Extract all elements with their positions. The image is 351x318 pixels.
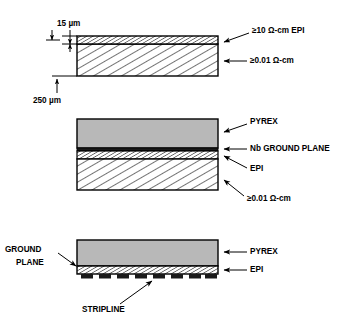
label-bottom-ground-plane-line1: GROUND (5, 245, 41, 254)
label-bottom-epi: EPI (250, 265, 263, 274)
middle-epi-layer (77, 151, 218, 159)
stripline-segment (135, 274, 147, 279)
middle-substrate-leader-line (224, 180, 244, 196)
middle-epi-leader-line (224, 156, 247, 168)
dimension-epi-thickness: 15 µm (57, 19, 80, 28)
middle-pyrex-leader-line (224, 124, 247, 132)
label-middle-nb-ground-plane: Nb GROUND PLANE (250, 144, 330, 153)
diagram-canvas: 15 µm 250 µm ≥10 Ω-cm EPI ≥0.01 Ω-cm (0, 0, 351, 318)
bottom-epi-layer (77, 266, 218, 274)
bottom-pyrex-layer (77, 240, 218, 266)
stripline-segment (189, 274, 201, 279)
stripline-segment (171, 274, 183, 279)
middle-substrate-layer (77, 159, 218, 190)
top-epi-leader-line (224, 33, 249, 42)
top-substrate-layer (77, 44, 218, 76)
label-bottom-pyrex: PYREX (250, 247, 278, 256)
stripline-segment (153, 274, 165, 279)
label-middle-epi: EPI (250, 164, 263, 173)
label-top-epi: ≥10 Ω-cm EPI (252, 26, 304, 35)
label-bottom-stripline: STRIPLINE (82, 305, 125, 314)
stripline-segment (99, 274, 111, 279)
substrate-cross-section-diagram: 15 µm 250 µm ≥10 Ω-cm EPI ≥0.01 Ω-cm (0, 0, 351, 318)
label-middle-substrate: ≥0.01 Ω-cm (247, 194, 291, 203)
label-top-substrate: ≥0.01 Ω-cm (250, 56, 294, 65)
bottom-ground-plane-leader-line (58, 253, 76, 266)
stripline-segment (205, 274, 217, 279)
panel-top: 15 µm 250 µm ≥10 Ω-cm EPI ≥0.01 Ω-cm (33, 19, 304, 105)
middle-pyrex-layer (77, 119, 218, 148)
label-middle-pyrex: PYREX (250, 117, 278, 126)
stripline-segment (117, 274, 129, 279)
top-epi-layer (77, 36, 218, 44)
stripline-leader-line (120, 281, 152, 304)
label-bottom-ground-plane-line2: PLANE (16, 258, 44, 267)
stripline-segment (81, 274, 93, 279)
panel-bottom: GROUND PLANE PYREX EPI STRIPLINE (5, 240, 278, 314)
panel-middle: PYREX Nb GROUND PLANE EPI ≥0.01 Ω-cm (77, 117, 330, 203)
dimension-substrate-thickness: 250 µm (33, 96, 61, 105)
